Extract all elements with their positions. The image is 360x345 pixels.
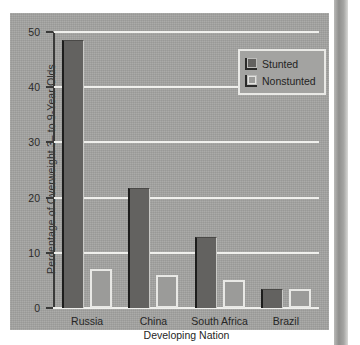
- legend-swatch-nonstunted-icon: [245, 75, 257, 87]
- legend-item-nonstunted: Nonstunted: [245, 72, 319, 89]
- legend-swatch-stunted-icon: [245, 58, 257, 70]
- chart-legend: Stunted Nonstunted: [238, 49, 326, 95]
- bar-china-nonstunted: [156, 275, 178, 308]
- x-axis-title: Developing Nation: [54, 329, 319, 341]
- x-axis-label-china: China: [140, 315, 167, 327]
- page-edge-margin: [348, 0, 360, 345]
- gridline: [54, 252, 319, 254]
- legend-label-nonstunted: Nonstunted: [262, 75, 316, 87]
- bar-brazil-stunted: [261, 289, 283, 308]
- x-axis-label-south-africa: South Africa: [191, 315, 248, 327]
- gridline: [54, 197, 319, 199]
- x-axis-label-brazil: Brazil: [273, 315, 299, 327]
- y-axis-tick-label: 40: [28, 81, 40, 93]
- gridline: [54, 141, 319, 143]
- x-axis-label-russia: Russia: [71, 315, 103, 327]
- chart-panel: Percentage of Overweight 3– to 9-Year Ol…: [10, 13, 329, 330]
- page-spine-shadow: [334, 0, 348, 345]
- gridline: [54, 31, 319, 33]
- y-axis-tick-label: 50: [28, 26, 40, 38]
- y-axis-tick-label: 0: [34, 302, 40, 314]
- bar-south-africa-nonstunted: [223, 280, 245, 308]
- y-axis-tick-label: 20: [28, 192, 40, 204]
- y-axis-tick: [46, 307, 53, 309]
- y-axis-tick: [46, 252, 53, 254]
- bar-south-africa-stunted: [195, 237, 217, 308]
- legend-label-stunted: Stunted: [262, 58, 298, 70]
- y-axis-tick: [46, 86, 53, 88]
- legend-item-stunted: Stunted: [245, 55, 319, 72]
- y-axis-tick: [46, 31, 53, 33]
- bar-brazil-nonstunted: [289, 289, 311, 308]
- bar-russia-stunted: [62, 40, 84, 308]
- y-axis-tick: [46, 197, 53, 199]
- figure-container: Percentage of Overweight 3– to 9-Year Ol…: [0, 0, 360, 345]
- y-axis-tick-label: 10: [28, 247, 40, 259]
- bar-china-stunted: [128, 188, 150, 308]
- bar-russia-nonstunted: [90, 269, 112, 308]
- y-axis-tick-label: 30: [28, 136, 40, 148]
- y-axis-tick: [46, 141, 53, 143]
- y-axis-line: [53, 32, 55, 308]
